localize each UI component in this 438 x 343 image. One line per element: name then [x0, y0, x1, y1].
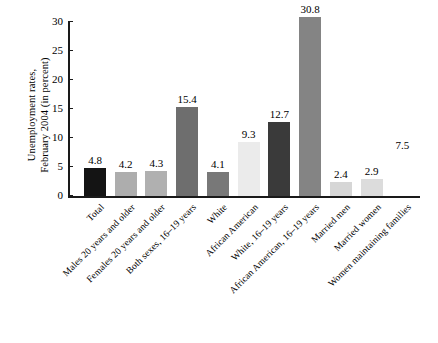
y-tick-mark — [68, 79, 73, 81]
y-tick-0: 0 — [68, 195, 73, 197]
bar-value-label: 4.2 — [119, 158, 133, 170]
y-tick-label: 30 — [52, 15, 63, 27]
bar-slot: 4.2 — [115, 22, 137, 196]
y-tick-25: 25 — [68, 50, 73, 52]
bar-slot: 4.8 — [84, 22, 106, 196]
x-axis-label-text: White — [205, 202, 229, 226]
y-tick-mark — [68, 21, 73, 23]
bar-value-label: 7.5 — [395, 139, 409, 151]
y-tick-label: 0 — [58, 189, 64, 201]
x-axis-label-text: White, 16–19 years — [230, 202, 291, 263]
y-axis-line — [68, 22, 70, 196]
y-tick-15: 15 — [68, 108, 73, 110]
y-axis-title: Unemployment rates, February 2004 (in pe… — [21, 15, 55, 215]
bar-value-label: 12.7 — [270, 108, 289, 120]
x-axis-line — [68, 196, 420, 198]
y-tick-10: 10 — [68, 137, 73, 139]
y-tick-label: 25 — [52, 44, 63, 56]
y-axis-title-line-2: February 2004 (in percent) — [38, 57, 51, 172]
bar-value-label: 4.8 — [88, 154, 102, 166]
plot-area: 051015202530 4.84.24.315.44.19.312.730.8… — [68, 22, 420, 196]
y-tick-label: 10 — [52, 131, 63, 143]
unemployment-rates-bar-chart: Unemployment rates, February 2004 (in pe… — [0, 0, 438, 343]
y-tick-20: 20 — [68, 79, 73, 81]
y-tick-label: 20 — [52, 73, 63, 85]
y-tick-mark — [68, 50, 73, 52]
y-tick-mark — [68, 108, 73, 110]
bar-value-label: 4.3 — [150, 157, 164, 169]
y-tick-mark — [68, 137, 73, 139]
x-axis-label-text: Total — [85, 202, 106, 223]
bar-value-label: 30.8 — [300, 3, 319, 15]
bar-value-label: 15.4 — [178, 93, 197, 105]
y-tick-mark — [68, 195, 73, 197]
bar[interactable] — [84, 168, 106, 196]
y-tick-label: 5 — [58, 160, 64, 172]
bar-slot: 9.3 — [238, 22, 260, 196]
y-tick-5: 5 — [68, 166, 73, 168]
y-tick-30: 30 — [68, 21, 73, 23]
y-tick-mark — [68, 166, 73, 168]
y-axis-title-line-1: Unemployment rates, — [25, 69, 38, 161]
y-tick-label: 15 — [52, 102, 63, 114]
